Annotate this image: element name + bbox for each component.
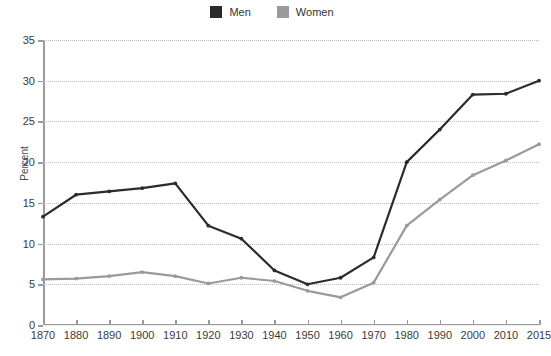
x-axis-tick-label: 2000 <box>461 329 485 341</box>
x-axis-tick-label: 1970 <box>361 329 385 341</box>
data-point-men <box>306 282 310 286</box>
x-axis-tick-label: 2015 <box>527 329 551 341</box>
y-axis-tick-label: 35 <box>23 34 35 46</box>
data-point-women <box>471 173 475 177</box>
data-point-women <box>74 277 78 281</box>
legend-item-women[interactable]: Women <box>277 6 334 18</box>
chart-legend: Men Women <box>0 6 544 18</box>
plot-area: 05101520253035 1870188018901900191019201… <box>43 40 539 325</box>
y-axis-tick-label: 10 <box>23 238 35 250</box>
x-axis-tick-label: 1930 <box>229 329 253 341</box>
data-point-men <box>206 224 210 228</box>
x-axis-tick-label: 1980 <box>394 329 418 341</box>
data-point-men <box>41 215 45 219</box>
y-axis-tick-label: 30 <box>23 75 35 87</box>
data-point-men <box>140 186 144 190</box>
y-axis-tick-label: 15 <box>23 197 35 209</box>
data-point-women <box>504 159 508 163</box>
data-point-men <box>372 256 376 260</box>
y-axis-tick <box>38 325 43 327</box>
x-axis-tick-label: 1900 <box>130 329 154 341</box>
data-point-women <box>306 289 310 293</box>
data-point-men <box>537 79 541 83</box>
data-point-men <box>504 92 508 96</box>
data-point-men <box>173 181 177 185</box>
legend-swatch-women-icon <box>277 6 289 18</box>
x-axis-tick-label: 1890 <box>97 329 121 341</box>
data-point-men <box>471 93 475 97</box>
data-point-women <box>372 281 376 285</box>
x-axis-tick-label: 1990 <box>428 329 452 341</box>
data-point-women <box>240 276 244 280</box>
x-axis-tick-label: 1910 <box>163 329 187 341</box>
x-axis-tick <box>539 320 541 325</box>
legend-item-men[interactable]: Men <box>210 6 250 18</box>
legend-label-men: Men <box>229 7 250 18</box>
series-layer <box>43 40 539 325</box>
x-axis-tick-label: 1870 <box>31 329 55 341</box>
x-axis-tick-label: 1920 <box>196 329 220 341</box>
series-line-women <box>43 144 539 297</box>
data-point-women <box>339 295 343 299</box>
gridline <box>43 325 539 326</box>
data-point-women <box>206 282 210 286</box>
x-axis-tick-label: 2010 <box>494 329 518 341</box>
data-point-women <box>140 270 144 274</box>
data-point-men <box>339 276 343 280</box>
data-point-men <box>107 190 111 194</box>
data-point-men <box>405 160 409 164</box>
y-axis-tick-label: 25 <box>23 115 35 127</box>
data-point-men <box>273 269 277 273</box>
x-axis-tick-label: 1880 <box>64 329 88 341</box>
x-axis-tick-label: 1960 <box>328 329 352 341</box>
data-point-men <box>438 128 442 132</box>
x-axis-tick-label: 1940 <box>262 329 286 341</box>
data-point-men <box>240 237 244 241</box>
data-point-women <box>173 274 177 278</box>
data-point-women <box>41 278 45 282</box>
y-axis-tick-label: 20 <box>23 156 35 168</box>
y-axis-tick-label: 5 <box>29 278 35 290</box>
x-axis-tick-label: 1950 <box>295 329 319 341</box>
data-point-men <box>74 193 78 197</box>
data-point-women <box>438 198 442 202</box>
legend-swatch-men-icon <box>210 6 222 18</box>
data-point-women <box>107 274 111 278</box>
legend-label-women: Women <box>296 7 334 18</box>
data-point-women <box>405 224 409 228</box>
data-point-women <box>273 279 277 283</box>
data-point-women <box>537 142 541 146</box>
